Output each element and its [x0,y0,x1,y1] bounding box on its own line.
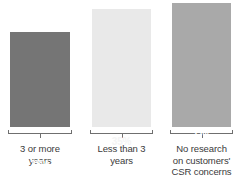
bar-no-research[interactable] [172,3,231,127]
bracket-cap-right-icon [71,130,72,134]
bracket-cap-right-icon [232,130,233,134]
category-label-2: No research on customers' CSR concerns [170,143,233,178]
bar-value-label-0: 28% [10,159,70,170]
bar-value-label-2: 37% [172,130,231,141]
bracket-center-tick-icon [40,133,41,138]
chart-plot-area: 28% 35% 37% [0,0,241,127]
bar-chart: 28% 35% 37% 3 or more years [0,0,241,184]
bar-value-label-1: 35% [92,136,151,147]
bracket-cap-right-icon [152,130,153,134]
bar-less-than-3-years[interactable] [92,9,151,127]
category-bracket-0 [8,129,72,137]
bar-3-or-more-years[interactable] [10,32,70,127]
